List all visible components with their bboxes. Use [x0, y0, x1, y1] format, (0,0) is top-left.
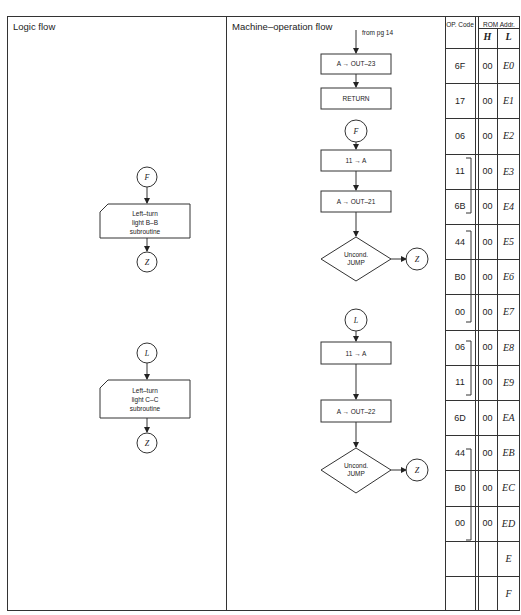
svg-text:L: L: [144, 349, 150, 358]
svg-text:light C–C: light C–C: [132, 396, 159, 404]
svg-text:Uncond.: Uncond.: [344, 251, 368, 258]
svg-text:JUMP: JUMP: [347, 470, 365, 477]
svg-text:L: L: [353, 316, 359, 325]
svg-text:11 → A: 11 → A: [346, 157, 368, 164]
svg-text:Z: Z: [145, 439, 150, 448]
svg-text:light B–B: light B–B: [132, 219, 158, 227]
svg-text:Left–turn: Left–turn: [132, 210, 158, 217]
svg-text:subroutine: subroutine: [130, 228, 161, 235]
svg-text:A → OUT–22: A → OUT–22: [337, 408, 376, 415]
svg-text:Left–turn: Left–turn: [132, 387, 158, 394]
svg-text:Uncond.: Uncond.: [344, 462, 368, 469]
svg-text:JUMP: JUMP: [347, 259, 365, 266]
svg-text:Z: Z: [415, 255, 420, 264]
svg-text:A → OUT–23: A → OUT–23: [337, 60, 376, 67]
svg-text:subroutine: subroutine: [130, 405, 161, 412]
svg-text:11 → A: 11 → A: [346, 350, 368, 357]
svg-text:F: F: [353, 127, 359, 136]
flowchart-svg: F Left–turn light B–B subroutine Z L Lef…: [0, 0, 521, 615]
svg-text:RETURN: RETURN: [342, 95, 369, 102]
svg-text:A → OUT–21: A → OUT–21: [337, 198, 376, 205]
svg-text:Z: Z: [415, 466, 420, 475]
svg-text:from pg 14: from pg 14: [362, 29, 393, 37]
svg-text:Z: Z: [145, 258, 150, 267]
svg-text:F: F: [144, 173, 150, 182]
